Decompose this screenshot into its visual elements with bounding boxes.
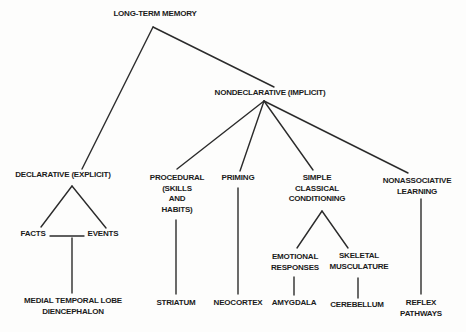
node-priming-line: PRIMING	[222, 173, 255, 184]
node-procedural-line: AND	[150, 194, 204, 205]
node-medial-temporal-lobe-diencephalon-line: DIENCEPHALON	[24, 307, 122, 318]
node-cerebellum: CEREBELLUM	[330, 300, 384, 311]
node-simple-classical-conditioning-line: SIMPLE	[289, 173, 346, 184]
node-procedural-line: (SKILLS	[150, 184, 204, 195]
memory-taxonomy-diagram: LONG-TERM MEMORYNONDECLARATIVE (IMPLICIT…	[0, 0, 466, 332]
edge-nondeclarative-to-priming	[240, 101, 264, 171]
node-neocortex-line: NEOCORTEX	[214, 298, 263, 309]
node-procedural-line: HABITS)	[150, 205, 204, 216]
node-emotional-responses-line: EMOTIONAL	[271, 252, 319, 263]
node-facts-line: FACTS	[20, 229, 45, 240]
node-skeletal-musculature-line: MUSCULATURE	[330, 262, 389, 273]
node-events: EVENTS	[88, 229, 119, 240]
edge-simple-classical-conditioning-to-skeletal-musculature	[322, 211, 348, 248]
edge-declarative-to-facts	[41, 186, 72, 227]
edge-nondeclarative-to-simple-classical-conditioning	[264, 101, 313, 170]
node-emotional-responses-line: RESPONSES	[271, 263, 319, 274]
edge-long-term-memory-to-nondeclarative	[153, 27, 274, 87]
node-striatum: STRIATUM	[156, 298, 195, 309]
node-nonassociative-learning-line: LEARNING	[383, 187, 452, 198]
node-long-term-memory: LONG-TERM MEMORY	[113, 9, 196, 20]
node-reflex-pathways: REFLEXPATHWAYS	[400, 298, 442, 319]
edge-nondeclarative-to-procedural	[177, 101, 264, 169]
node-declarative-line: DECLARATIVE (EXPLICIT)	[15, 170, 110, 181]
edge-simple-classical-conditioning-to-emotional-responses	[297, 211, 322, 248]
node-nondeclarative-line: NONDECLARATIVE (IMPLICIT)	[215, 88, 326, 99]
node-neocortex: NEOCORTEX	[214, 298, 263, 309]
node-reflex-pathways-line: PATHWAYS	[400, 309, 442, 320]
node-priming: PRIMING	[222, 173, 255, 184]
node-cerebellum-line: CEREBELLUM	[330, 300, 384, 311]
node-medial-temporal-lobe-diencephalon-line: MEDIAL TEMPORAL LOBE	[24, 296, 122, 307]
node-skeletal-musculature-line: SKELETAL	[330, 251, 389, 262]
node-amygdala-line: AMYGDALA	[272, 298, 317, 309]
node-skeletal-musculature: SKELETALMUSCULATURE	[330, 251, 389, 272]
node-long-term-memory-line: LONG-TERM MEMORY	[113, 9, 196, 20]
node-emotional-responses: EMOTIONALRESPONSES	[271, 252, 319, 273]
edge-nondeclarative-to-nonassociative-learning	[264, 101, 408, 173]
diagram-edges	[0, 0, 466, 332]
edge-declarative-to-events	[72, 186, 106, 228]
node-facts: FACTS	[20, 229, 45, 240]
node-nonassociative-learning-line: NONASSOCIATIVE	[383, 176, 452, 187]
node-nondeclarative: NONDECLARATIVE (IMPLICIT)	[215, 88, 326, 99]
node-procedural-line: PROCEDURAL	[150, 173, 204, 184]
node-medial-temporal-lobe-diencephalon: MEDIAL TEMPORAL LOBEDIENCEPHALON	[24, 296, 122, 317]
node-nonassociative-learning: NONASSOCIATIVELEARNING	[383, 176, 452, 197]
node-simple-classical-conditioning-line: CLASSICAL	[289, 184, 346, 195]
node-simple-classical-conditioning: SIMPLECLASSICALCONDITIONING	[289, 173, 346, 205]
node-striatum-line: STRIATUM	[156, 298, 195, 309]
node-reflex-pathways-line: REFLEX	[400, 298, 442, 309]
node-amygdala: AMYGDALA	[272, 298, 317, 309]
node-simple-classical-conditioning-line: CONDITIONING	[289, 194, 346, 205]
node-procedural: PROCEDURAL(SKILLSANDHABITS)	[150, 173, 204, 215]
edge-long-term-memory-to-declarative	[82, 27, 153, 169]
node-declarative: DECLARATIVE (EXPLICIT)	[15, 170, 110, 181]
node-events-line: EVENTS	[88, 229, 119, 240]
